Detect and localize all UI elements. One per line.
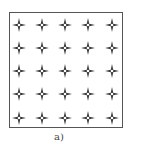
four-point-star-icon [81, 17, 95, 31]
four-point-star-icon [58, 86, 72, 100]
four-point-star-icon [105, 86, 119, 100]
four-point-star-icon [81, 63, 95, 77]
four-point-star-icon [58, 110, 72, 124]
four-point-star-icon [105, 110, 119, 124]
four-point-star-icon [12, 110, 26, 124]
four-point-star-icon [105, 63, 119, 77]
figure-label: a) [0, 131, 118, 142]
four-point-star-icon [81, 40, 95, 54]
four-point-star-icon [12, 17, 26, 31]
four-point-star-icon [81, 86, 95, 100]
four-point-star-icon [105, 17, 119, 31]
four-point-star-icon [81, 110, 95, 124]
four-point-star-icon [12, 63, 26, 77]
four-point-star-icon [12, 40, 26, 54]
four-point-star-icon [35, 110, 49, 124]
four-point-star-icon [35, 40, 49, 54]
four-point-star-icon [58, 40, 72, 54]
four-point-star-icon [35, 17, 49, 31]
four-point-star-icon [12, 86, 26, 100]
four-point-star-icon [105, 40, 119, 54]
four-point-star-icon [58, 63, 72, 77]
four-point-star-icon [58, 17, 72, 31]
four-point-star-icon [35, 86, 49, 100]
four-point-star-icon [35, 63, 49, 77]
